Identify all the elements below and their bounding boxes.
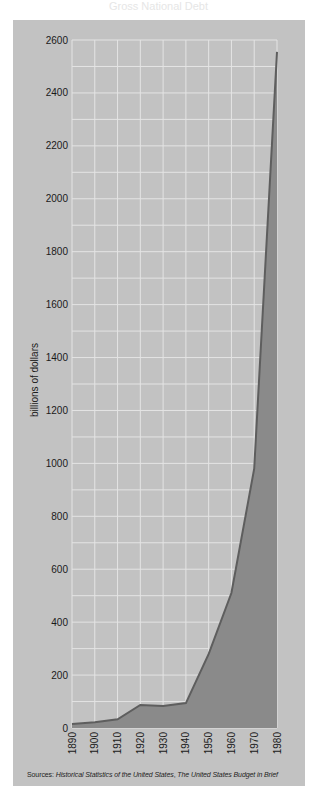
sources-prefix: Sources: <box>27 771 56 778</box>
y-axis-ticks: 0200400600800100012001400160018002000220… <box>46 35 69 734</box>
y-tick-label: 200 <box>51 670 68 681</box>
y-tick-label: 2400 <box>46 87 69 98</box>
y-tick-label: 1800 <box>46 246 69 257</box>
source-budget-in-brief: The United States Budget in Brief <box>177 771 278 778</box>
y-tick-label: 2000 <box>46 193 69 204</box>
sources-note: Sources: Historical Statistics of the Un… <box>27 771 278 778</box>
x-axis-ticks: 1890190019101920193019401950196019701980 <box>67 732 283 755</box>
y-tick-label: 1200 <box>46 405 69 416</box>
source-historical-statistics: Historical Statistics of the United Stat… <box>56 771 174 778</box>
x-tick-label: 1970 <box>249 732 260 755</box>
x-tick-label: 1890 <box>67 732 78 755</box>
y-tick-label: 1600 <box>46 299 69 310</box>
y-axis-label: billions of dollars <box>29 343 40 417</box>
area-chart: 0200400600800100012001400160018002000220… <box>0 0 317 804</box>
x-tick-label: 1900 <box>89 732 100 755</box>
x-tick-label: 1920 <box>135 732 146 755</box>
y-tick-label: 1000 <box>46 458 69 469</box>
x-tick-label: 1940 <box>180 732 191 755</box>
debt-area <box>72 52 277 728</box>
x-tick-label: 1960 <box>226 732 237 755</box>
x-tick-label: 1950 <box>203 732 214 755</box>
y-tick-label: 800 <box>51 511 68 522</box>
x-tick-label: 1980 <box>272 732 283 755</box>
y-tick-label: 400 <box>51 617 68 628</box>
y-tick-label: 600 <box>51 564 68 575</box>
y-tick-label: 2600 <box>46 35 69 46</box>
y-tick-label: 1400 <box>46 352 69 363</box>
x-tick-label: 1930 <box>158 732 169 755</box>
y-tick-label: 0 <box>62 723 68 734</box>
y-tick-label: 2200 <box>46 140 69 151</box>
x-tick-label: 1910 <box>112 732 123 755</box>
